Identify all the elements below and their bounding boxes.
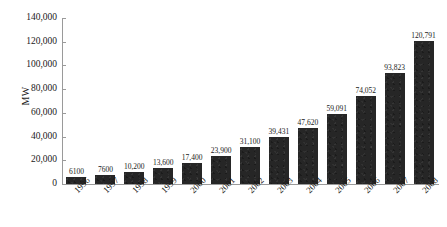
bar-value-label: 93,823 bbox=[372, 63, 418, 72]
bar-group: 47,620 bbox=[298, 18, 318, 184]
bar-group: 120,791 bbox=[414, 18, 434, 184]
y-tick-label: 80,000 bbox=[0, 83, 57, 93]
y-tick-label: 40,000 bbox=[0, 131, 57, 141]
bar-value-label: 120,791 bbox=[401, 31, 447, 40]
bar bbox=[327, 114, 347, 184]
bar-group: 74,052 bbox=[356, 18, 376, 184]
bar-group: 59,091 bbox=[327, 18, 347, 184]
y-tick-label: 140,000 bbox=[0, 12, 57, 22]
bar-group: 7600 bbox=[95, 18, 115, 184]
bar-value-label: 74,052 bbox=[343, 86, 389, 95]
bar-group: 23,900 bbox=[211, 18, 231, 184]
y-tick-label: 0 bbox=[0, 178, 57, 188]
bar-group: 6100 bbox=[66, 18, 86, 184]
y-tick-label: 60,000 bbox=[0, 107, 57, 117]
y-tick-label: 20,000 bbox=[0, 154, 57, 164]
y-tick-mark bbox=[62, 184, 66, 185]
bar bbox=[385, 73, 405, 184]
bar-value-label: 31,100 bbox=[227, 137, 273, 146]
bar-value-label: 17,400 bbox=[169, 153, 215, 162]
bar-value-label: 59,091 bbox=[314, 104, 360, 113]
bar-group: 93,823 bbox=[385, 18, 405, 184]
bar-value-label: 47,620 bbox=[285, 118, 331, 127]
bar-value-label: 23,900 bbox=[198, 146, 244, 155]
bar-value-label: 39,431 bbox=[256, 127, 302, 136]
bar-group: 39,431 bbox=[269, 18, 289, 184]
y-tick-label: 120,000 bbox=[0, 36, 57, 46]
plot-area: 6100760010,20013,60017,40023,90031,10039… bbox=[62, 18, 438, 184]
bar-group: 31,100 bbox=[240, 18, 260, 184]
y-tick-label: 100,000 bbox=[0, 59, 57, 69]
bar bbox=[356, 96, 376, 184]
bar-chart: MW 020,00040,00060,00080,000100,000120,0… bbox=[0, 0, 447, 227]
bar-group: 17,400 bbox=[182, 18, 202, 184]
bar bbox=[414, 41, 434, 184]
